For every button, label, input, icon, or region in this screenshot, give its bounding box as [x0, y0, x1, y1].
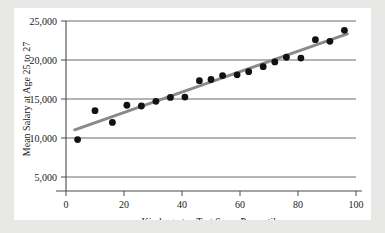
figure-card: 5,00010,00015,00020,00025,000 0204060801… [14, 8, 371, 220]
data-point [74, 136, 81, 143]
data-point [196, 77, 203, 84]
data-point [234, 71, 241, 78]
data-point [327, 38, 334, 45]
data-point [109, 119, 116, 126]
data-point [153, 98, 160, 105]
x-axis-title: Kindergarten Test Score Percentile [141, 216, 281, 220]
data-point [260, 63, 267, 70]
y-axis-title: Mean Salary at Age 25 to 27 [21, 42, 32, 156]
x-tick-label: 100 [349, 199, 364, 210]
data-point [271, 59, 278, 66]
data-point [219, 72, 226, 79]
scatter-chart: 5,00010,00015,00020,00025,000 0204060801… [14, 8, 371, 220]
data-point [124, 102, 131, 109]
data-point [92, 107, 99, 114]
data-point [298, 55, 305, 62]
x-tick-label: 0 [64, 199, 69, 210]
data-point [138, 103, 145, 110]
data-point [312, 36, 319, 43]
y-tick-label: 15,000 [30, 94, 58, 105]
y-tick-label: 5,000 [35, 172, 58, 183]
data-point [245, 68, 252, 75]
data-point [341, 27, 348, 34]
x-tick-label: 80 [293, 199, 303, 210]
data-point [182, 94, 189, 101]
data-point [208, 76, 215, 83]
y-tick-label: 10,000 [30, 133, 58, 144]
x-tick-label: 20 [119, 199, 129, 210]
y-tick-label: 20,000 [30, 55, 58, 66]
chart-svg: 5,00010,00015,00020,00025,000 0204060801… [14, 8, 371, 220]
data-point [283, 54, 290, 61]
x-tick-label: 60 [235, 199, 245, 210]
x-tick-label: 40 [177, 199, 187, 210]
data-point [167, 94, 174, 101]
y-tick-label: 25,000 [30, 16, 58, 27]
